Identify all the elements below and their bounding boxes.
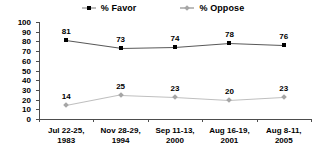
data-point-label: 23 — [171, 84, 180, 93]
data-point — [227, 41, 231, 45]
y-tick: 100 — [36, 22, 39, 23]
line-chart: % Favor % Oppose 0102030405060708090100 … — [0, 0, 326, 165]
legend-item-oppose: % Oppose — [180, 3, 244, 13]
y-tick-label: 80 — [22, 37, 31, 46]
series-line-segment — [66, 95, 121, 107]
plot-area: 0102030405060708090100 81737478761425232… — [39, 22, 311, 119]
y-tick-label: 60 — [22, 56, 31, 65]
x-axis-label: Aug 16-19,2001 — [209, 126, 249, 146]
data-point — [172, 94, 178, 100]
chart-legend: % Favor % Oppose — [0, 3, 326, 13]
data-point-label: 23 — [279, 84, 288, 93]
data-point-label: 14 — [62, 92, 71, 101]
x-tick — [93, 119, 94, 122]
x-tick — [202, 119, 203, 122]
x-tick — [257, 119, 258, 122]
y-tick-label: 10 — [22, 105, 31, 114]
series-line-segment — [175, 97, 229, 101]
legend-item-favor: % Favor — [82, 3, 137, 13]
x-axis-label: Sep 11-13,2000 — [155, 126, 194, 146]
data-point-label: 74 — [171, 34, 180, 43]
series-line-segment — [66, 40, 121, 49]
series-line-segment — [175, 43, 229, 48]
y-tick-label: 100 — [18, 18, 31, 27]
series-line-segment — [229, 43, 283, 46]
x-axis-label-line: 2001 — [209, 136, 249, 146]
y-tick: 50 — [36, 71, 39, 72]
data-point-label: 25 — [116, 82, 125, 91]
data-point — [282, 43, 286, 47]
data-point — [64, 38, 68, 42]
y-tick: 90 — [36, 32, 39, 33]
y-axis-line — [39, 22, 40, 119]
data-point-label: 20 — [225, 87, 234, 96]
x-axis-label-line: 2005 — [266, 136, 302, 146]
x-axis-label-line: Aug 16-19, — [209, 126, 249, 136]
legend-marker-square-icon — [82, 3, 96, 13]
data-point-label: 78 — [225, 30, 234, 39]
series-line-segment — [121, 47, 175, 49]
data-point-label: 76 — [279, 32, 288, 41]
x-axis-label-line: 2000 — [155, 136, 194, 146]
x-axis-label-line: Aug 8-11, — [266, 126, 302, 136]
y-tick: 60 — [36, 61, 39, 62]
y-tick: 10 — [36, 109, 39, 110]
data-point — [281, 94, 287, 100]
data-point — [173, 45, 177, 49]
x-axis-label: Jul 22-25,1983 — [48, 126, 84, 146]
data-point — [119, 46, 123, 50]
x-axis-label-line: Sep 11-13, — [155, 126, 194, 136]
x-axis-label: Aug 8-11,2005 — [266, 126, 302, 146]
y-tick: 30 — [36, 90, 39, 91]
series-line-segment — [121, 95, 175, 98]
data-point-label: 81 — [62, 27, 71, 36]
legend-label-favor: % Favor — [101, 3, 137, 13]
legend-label-oppose: % Oppose — [199, 3, 244, 13]
x-axis-line — [39, 119, 311, 120]
data-point — [227, 97, 233, 103]
x-tick — [148, 119, 149, 122]
y-tick: 20 — [36, 100, 39, 101]
data-point — [63, 103, 69, 109]
y-tick-label: 90 — [22, 27, 31, 36]
data-point — [118, 92, 124, 98]
y-tick-label: 50 — [22, 66, 31, 75]
series-line-segment — [229, 97, 283, 101]
x-tick — [311, 119, 312, 122]
x-axis-label-line: Jul 22-25, — [48, 126, 84, 136]
y-tick-label: 0 — [27, 115, 31, 124]
y-tick: 40 — [36, 80, 39, 81]
y-tick-label: 30 — [22, 85, 31, 94]
x-axis-label-line: 1994 — [101, 136, 141, 146]
y-tick-label: 40 — [22, 76, 31, 85]
x-axis-label-line: Nov 28-29, — [101, 126, 141, 136]
x-axis-label: Nov 28-29,1994 — [101, 126, 141, 146]
x-tick — [39, 119, 40, 122]
x-axis-label-line: 1983 — [48, 136, 84, 146]
y-tick: 80 — [36, 41, 39, 42]
y-tick-label: 70 — [22, 47, 31, 56]
y-tick: 70 — [36, 51, 39, 52]
legend-marker-diamond-icon — [180, 3, 194, 13]
data-point-label: 73 — [116, 35, 125, 44]
y-tick-label: 20 — [22, 95, 31, 104]
